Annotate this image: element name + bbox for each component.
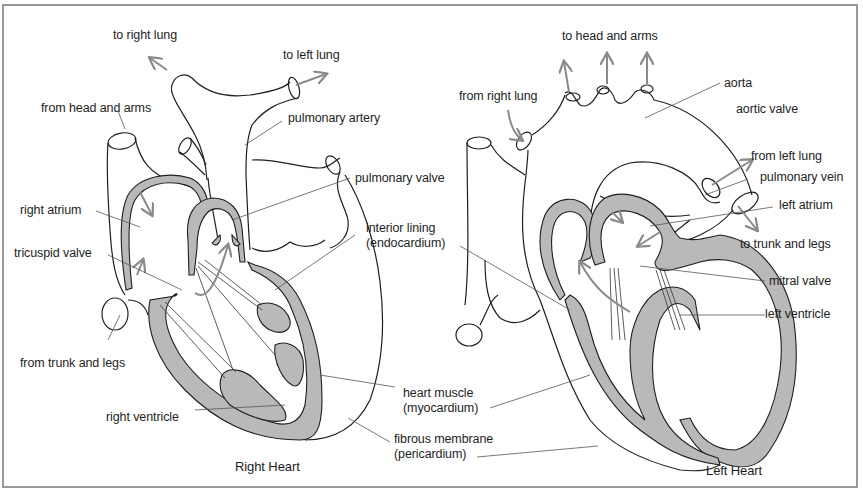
heart-diagram: to right lung to left lung from head and… xyxy=(0,0,863,494)
label-pericardium: (pericardium) xyxy=(394,447,466,461)
label-left-ventricle: left ventricle xyxy=(765,307,830,321)
label-to-right-lung: to right lung xyxy=(113,28,177,42)
label-pulmonary-valve: pulmonary valve xyxy=(355,171,445,185)
left-flow-arrows xyxy=(508,54,757,312)
left-heart-muscle xyxy=(540,194,796,467)
label-from-trunk-and-legs: from trunk and legs xyxy=(20,356,125,370)
label-pulmonary-vein: pulmonary vein xyxy=(760,170,843,184)
label-left-atrium: left atrium xyxy=(779,198,833,212)
label-from-right-lung: from right lung xyxy=(459,89,537,103)
label-to-left-lung: to left lung xyxy=(283,48,339,62)
label-tricuspid-valve: tricuspid valve xyxy=(14,246,92,260)
label-aorta: aorta xyxy=(724,76,752,90)
label-mitral-valve: mitral valve xyxy=(769,274,831,288)
label-fibrous-membrane: fibrous membrane xyxy=(394,432,493,446)
label-pulmonary-artery: pulmonary artery xyxy=(288,111,380,125)
label-right-ventricle: right ventricle xyxy=(106,410,179,424)
label-right-atrium: right atrium xyxy=(20,203,81,217)
label-heart-muscle: heart muscle xyxy=(403,386,473,400)
label-aortic-valve: aortic valve xyxy=(736,102,798,116)
caption-right-heart: Right Heart xyxy=(235,460,300,474)
label-to-head-and-arms: to head and arms xyxy=(562,29,658,43)
caption-left-heart: Left Heart xyxy=(706,464,762,478)
label-endocardium: (endocardium) xyxy=(366,236,445,250)
label-from-left-lung: from left lung xyxy=(751,149,822,163)
left-heart-drawing xyxy=(456,85,762,471)
label-interior-lining: interior lining xyxy=(366,221,435,235)
label-to-trunk-and-legs: to trunk and legs xyxy=(740,237,831,251)
label-myocardium: (myocardium) xyxy=(403,401,478,415)
label-from-head-and-arms: from head and arms xyxy=(41,101,151,115)
